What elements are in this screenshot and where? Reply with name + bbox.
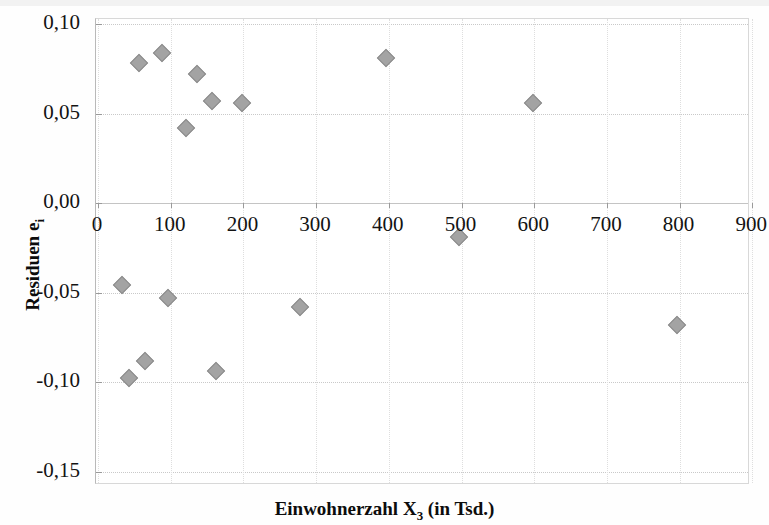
data-point-marker xyxy=(667,316,685,334)
data-point-marker xyxy=(120,369,138,387)
gridline-horizontal xyxy=(96,382,748,383)
data-point-marker xyxy=(233,94,251,112)
gridline-vertical xyxy=(389,19,390,483)
data-point-marker xyxy=(524,94,542,112)
x-axis-tick-label: 200 xyxy=(227,212,259,237)
x-axis-title-main: Einwohnerzahl X xyxy=(275,498,417,519)
top-band xyxy=(0,0,769,6)
y-axis-tick-mark xyxy=(96,293,102,294)
gridline-vertical xyxy=(171,19,172,483)
data-point-marker xyxy=(207,362,225,380)
data-point-marker xyxy=(130,54,148,72)
x-axis-tick-label: 0 xyxy=(92,212,103,237)
y-axis-title: Residuen ei xyxy=(22,135,48,395)
data-point-marker xyxy=(291,298,309,316)
y-axis-tick-label: 0,10 xyxy=(0,10,80,35)
gridline-horizontal xyxy=(96,24,748,25)
gridline-vertical xyxy=(534,19,535,483)
gridline-horizontal xyxy=(96,293,748,294)
x-axis-tick-mark xyxy=(171,203,172,208)
y-axis-title-main: Residuen e xyxy=(22,223,43,311)
x-axis-tick-mark xyxy=(752,203,753,208)
y-axis-tick-mark xyxy=(96,114,102,115)
x-axis-tick-mark xyxy=(389,203,390,208)
x-axis-tick-mark xyxy=(316,203,317,208)
x-axis-tick-label: 300 xyxy=(299,212,331,237)
x-axis-tick-mark xyxy=(243,203,244,208)
gridline-vertical xyxy=(752,19,753,483)
gridline-horizontal xyxy=(96,114,748,115)
gridline-vertical xyxy=(607,19,608,483)
data-point-marker xyxy=(136,351,154,369)
x-axis-tick-label: 400 xyxy=(372,212,404,237)
gridline-horizontal xyxy=(96,472,748,473)
y-axis-zero-line xyxy=(96,203,748,204)
x-axis-tick-mark xyxy=(534,203,535,208)
gridline-vertical xyxy=(98,19,99,483)
data-point-marker xyxy=(188,65,206,83)
data-point-marker xyxy=(159,289,177,307)
residual-scatter-chart: 0,100,050,00-0,05-0,10-0,15 010020030040… xyxy=(0,0,769,525)
gridline-vertical xyxy=(316,19,317,483)
data-point-marker xyxy=(377,49,395,67)
y-axis-tick-label: 0,05 xyxy=(0,100,80,125)
y-axis-tick-mark xyxy=(96,472,102,473)
y-axis-tick-mark xyxy=(96,382,102,383)
x-axis-tick-label: 500 xyxy=(445,212,477,237)
data-point-marker xyxy=(177,119,195,137)
x-axis-tick-mark xyxy=(680,203,681,208)
x-axis-tick-label: 900 xyxy=(736,212,768,237)
x-axis-title: Einwohnerzahl X3 (in Tsd.) xyxy=(0,498,769,524)
y-axis-tick-label: -0,15 xyxy=(0,458,80,483)
gridline-vertical xyxy=(680,19,681,483)
x-axis-tick-label: 700 xyxy=(590,212,622,237)
plot-area xyxy=(95,18,749,484)
data-point-marker xyxy=(203,92,221,110)
x-axis-tick-label: 600 xyxy=(517,212,549,237)
y-axis-tick-mark xyxy=(96,24,102,25)
y-axis-tick-mark xyxy=(96,203,102,204)
data-point-marker xyxy=(153,43,171,61)
x-axis-tick-label: 100 xyxy=(154,212,186,237)
x-axis-tick-label: 800 xyxy=(663,212,695,237)
gridline-vertical xyxy=(243,19,244,483)
y-axis-title-subscript: i xyxy=(32,219,47,223)
gridline-vertical xyxy=(462,19,463,483)
x-axis-title-tail: (in Tsd.) xyxy=(423,498,494,519)
x-axis-tick-mark xyxy=(462,203,463,208)
x-axis-tick-mark xyxy=(607,203,608,208)
